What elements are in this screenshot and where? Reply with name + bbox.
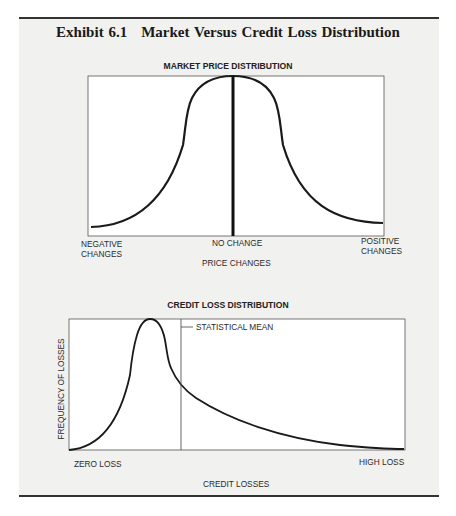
market-plot-area [88,76,384,236]
tick-negative-line2: CHANGES [81,249,122,259]
tick-negative: NEGATIVE CHANGES [81,239,122,259]
tick-no-change: NO CHANGE [212,238,262,248]
credit-x-axis-label: CREDIT LOSSES [203,479,269,489]
tick-positive-line1: POSITIVE [361,236,402,246]
tick-negative-line1: NEGATIVE [81,239,122,249]
statistical-mean-label: STATISTICAL MEAN [196,322,273,332]
credit-chart-title: CREDIT LOSS DISTRIBUTION [0,300,456,310]
tick-high-loss: HIGH LOSS [359,457,404,467]
tick-positive-line2: CHANGES [361,246,402,256]
credit-y-axis-label: FREQUENCY OF LOSSES [56,338,66,439]
tick-zero-loss: ZERO LOSS [74,459,122,469]
tick-positive: POSITIVE CHANGES [361,236,402,256]
market-x-axis-label: PRICE CHANGES [202,258,271,268]
credit-plot-area [69,319,405,450]
